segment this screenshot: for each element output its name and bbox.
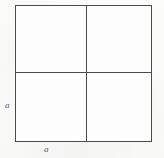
square-outline: [15, 5, 152, 142]
vertical-median-line: [86, 5, 88, 142]
side-length-label-bottom: a: [44, 145, 49, 154]
side-length-label-left: a: [5, 101, 10, 110]
geometry-figure: a a: [0, 0, 164, 158]
horizontal-median-line: [15, 72, 152, 74]
